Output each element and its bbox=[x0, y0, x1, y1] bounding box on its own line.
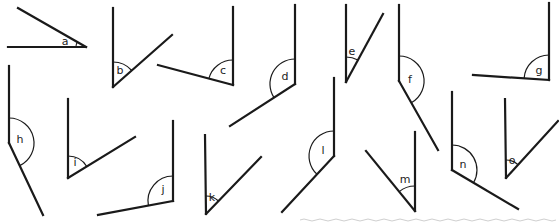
angle-label: m bbox=[400, 173, 411, 186]
angle-label: e bbox=[349, 45, 356, 58]
angle-i-arc bbox=[68, 156, 87, 167]
angle-c: c bbox=[158, 7, 233, 85]
bottom-wavy-line bbox=[300, 219, 556, 221]
angle-label: j bbox=[160, 183, 164, 196]
angle-o-arm-1 bbox=[505, 99, 506, 178]
angle-m: m bbox=[366, 132, 415, 211]
angle-m-arc bbox=[399, 186, 415, 192]
angle-h-arm-2 bbox=[9, 143, 43, 215]
angle-b-arm-2 bbox=[113, 35, 172, 87]
angle-h: h bbox=[9, 66, 43, 215]
angle-k-arm-2 bbox=[206, 157, 261, 214]
angle-a: a bbox=[8, 8, 86, 48]
angle-j-arm-2 bbox=[98, 201, 173, 215]
angle-e: e bbox=[346, 5, 383, 82]
angle-i: i bbox=[68, 99, 135, 178]
angle-n: n bbox=[452, 92, 518, 209]
angle-j: j bbox=[98, 121, 173, 215]
angle-label: c bbox=[220, 64, 226, 77]
angle-o: o bbox=[505, 99, 558, 178]
angle-label: a bbox=[62, 35, 69, 48]
angle-l-arm-2 bbox=[282, 156, 334, 212]
angle-label: h bbox=[17, 133, 24, 146]
angle-label: i bbox=[73, 156, 76, 169]
angle-label: g bbox=[536, 64, 543, 77]
angle-d: d bbox=[230, 5, 295, 126]
angle-k: k bbox=[205, 135, 261, 214]
angle-o-arm-2 bbox=[506, 121, 558, 178]
angle-f: f bbox=[399, 5, 438, 150]
angle-g: g bbox=[473, 3, 549, 80]
angle-b: b bbox=[113, 8, 172, 87]
angles-diagram: abcdefghijklmno bbox=[0, 0, 559, 222]
angle-label: b bbox=[117, 64, 124, 77]
angle-k-arm-1 bbox=[205, 135, 206, 214]
angle-label: l bbox=[321, 144, 324, 157]
angles-canvas: abcdefghijklmno bbox=[0, 0, 559, 222]
angle-l: l bbox=[282, 78, 334, 212]
angles-group: abcdefghijklmno bbox=[8, 3, 558, 215]
angle-label: n bbox=[460, 158, 467, 171]
angle-a-arm-2 bbox=[18, 8, 86, 47]
angle-label: o bbox=[509, 154, 516, 167]
angle-f-arm-2 bbox=[399, 81, 438, 150]
angle-label: f bbox=[408, 73, 413, 86]
angle-label: d bbox=[282, 70, 289, 83]
angle-label: k bbox=[209, 191, 216, 204]
angle-d-arm-2 bbox=[230, 84, 295, 126]
angle-i-arm-2 bbox=[68, 137, 135, 178]
